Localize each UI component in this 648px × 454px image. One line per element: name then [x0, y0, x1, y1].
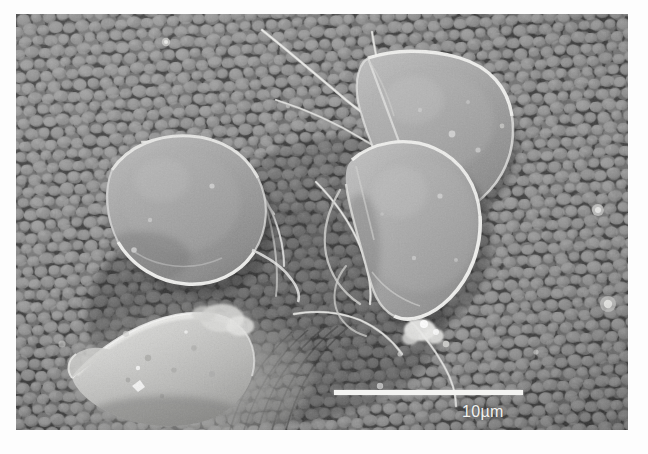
sem-micrograph-image: 10µm	[16, 14, 628, 430]
figure-root: 10µm	[0, 0, 648, 454]
micrograph-canvas	[16, 14, 628, 430]
film-grain	[16, 14, 628, 430]
